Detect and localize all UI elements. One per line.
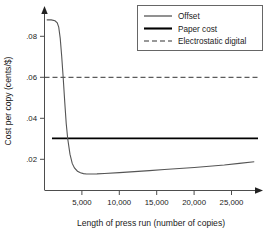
y-axis-arrow-icon [41, 6, 47, 14]
x-axis-arrow-icon [255, 187, 263, 193]
chart-legend: Offset Paper cost Electrostatic digital [138, 6, 263, 51]
x-tick-label: 25,000 [220, 198, 245, 207]
legend-label-offset: Offset [178, 12, 200, 21]
cost-per-copy-line-chart: .08 .06 .04 .02 5,000 10,000 15,000 20,0… [0, 0, 267, 232]
chart-figure: .08 .06 .04 .02 5,000 10,000 15,000 20,0… [0, 0, 267, 232]
y-axis-ticks: .08 .06 .04 .02 [26, 32, 44, 164]
x-axis-ticks: 5,000 10,000 15,000 20,000 25,000 [72, 191, 244, 208]
y-tick-label: .04 [26, 114, 38, 123]
x-tick-label: 10,000 [107, 198, 132, 207]
legend-label-electrostatic-digital: Electrostatic digital [178, 37, 246, 46]
y-axis-title: Cost per copy (cents/$) [3, 56, 13, 145]
x-axis-title: Length of press run (number of copies) [77, 218, 225, 228]
x-tick-label: 20,000 [182, 198, 207, 207]
x-tick-label: 5,000 [72, 198, 92, 207]
y-tick-label: .02 [26, 155, 37, 164]
x-tick-label: 15,000 [145, 198, 170, 207]
y-tick-label: .08 [26, 32, 37, 41]
y-tick-label: .06 [26, 73, 37, 82]
legend-label-paper-cost: Paper cost [178, 25, 218, 34]
